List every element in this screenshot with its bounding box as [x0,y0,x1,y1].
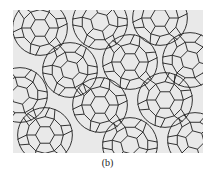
tiling-svg [13,10,203,153]
tiling-figure [13,10,203,153]
figure-caption: (b) [0,157,215,168]
